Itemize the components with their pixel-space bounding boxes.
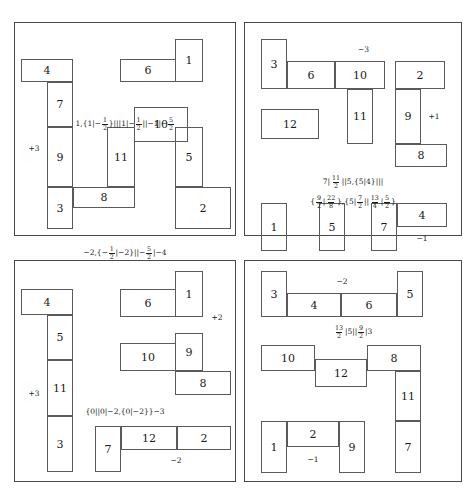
figure-board: 4617101159+38231,{1|−12}|||1|−12||−1|−52… [0,0,474,495]
game-box: 6 [120,59,176,82]
free-move-value: −3 [358,46,369,54]
game-box: 12 [121,426,177,450]
game-box-label: 2 [310,429,317,440]
free-move-label: −2 [287,271,397,293]
game-box: 8 [367,345,421,371]
game-box-label: 9 [186,347,193,358]
game-box: 5 [175,127,203,187]
game-box: 5 [397,271,423,317]
game-box: 5 [47,315,73,360]
game-box-label: 4 [44,65,51,76]
game-box-label: 6 [308,70,315,81]
game-box: 5 [319,203,345,251]
game-box: 7 [95,426,121,472]
game-box: 6 [287,61,335,89]
game-box-label: 3 [57,203,64,214]
game-box: 10 [335,61,385,89]
game-box-label: 5 [57,332,64,343]
game-box: 4 [21,59,73,82]
game-value-formula: 7|112||5,{5|4}||| [245,175,461,189]
free-move-value: +3 [28,390,39,398]
free-move-label: −1 [287,447,339,473]
game-box-label: 11 [114,152,128,163]
game-box: 12 [261,109,319,139]
game-box-label: 9 [349,442,356,453]
game-box: 7 [395,421,421,473]
panel-top-right: 3−36102119+11281574−17|112||5,{5|4}|||{9… [244,22,462,236]
game-value-formula: {0||0|−2,{0|−2}}−3 [15,408,235,416]
game-box-label: 3 [271,289,278,300]
game-box-label: 2 [200,203,207,214]
free-move-value: −1 [307,456,318,464]
game-box: 4 [287,293,341,317]
game-box-label: 12 [142,433,156,444]
game-box: 12 [315,359,367,387]
game-box-label: 7 [405,442,412,453]
game-box: 8 [395,144,447,167]
game-value-formula: 1,{1|−12}|||1|−12||−1|−52 [15,117,235,131]
free-move-value: −2 [336,278,347,286]
game-box-label: 1 [186,55,193,66]
game-box: 11 [395,371,421,421]
game-box: 8 [175,371,231,395]
game-box: 11 [107,127,135,187]
game-box: 6 [120,289,176,317]
free-move-value: −1 [416,235,427,243]
game-box-label: 11 [53,383,67,394]
game-box: 2 [287,421,339,447]
game-box: 9 [395,89,421,144]
free-move-label: +2 [203,305,231,331]
game-box-label: 8 [391,353,398,364]
free-move-label: +3 [21,82,47,215]
game-box-label: 10 [141,352,155,363]
game-box-label: 4 [311,300,318,311]
game-box-label: 7 [381,222,388,233]
game-box-label: 1 [271,222,278,233]
game-box-label: 1 [271,442,278,453]
free-move-label: +3 [21,315,47,472]
game-box-label: 3 [57,439,64,450]
panel-top-left: 4617101159+38231,{1|−12}|||1|−12||−1|−52… [14,22,236,236]
game-box-label: 1 [186,289,193,300]
game-box: 11 [347,89,373,144]
game-box-label: 7 [57,99,64,110]
game-value-formula: 132|5||92|3 [245,325,461,339]
game-box-label: 5 [186,152,193,163]
free-move-label: +1 [421,89,447,144]
game-box-label: 4 [44,297,51,308]
game-box-label: 8 [200,378,207,389]
game-box-label: 8 [418,150,425,161]
game-box-label: 5 [407,289,414,300]
game-box: 1 [175,271,203,317]
game-value-formula: −2,{−12|−2}||−52|−4 [15,246,235,260]
game-box: 2 [175,187,231,229]
game-box: 9 [339,421,365,473]
game-box-label: 6 [145,65,152,76]
game-box: 9 [175,333,203,371]
game-box-label: 10 [353,70,367,81]
game-box: 10 [120,343,176,371]
game-box: 3 [47,187,73,229]
game-box: 4 [21,289,73,315]
game-box-label: 10 [281,353,295,364]
game-box: 3 [261,39,287,89]
free-move-label: −3 [287,39,440,61]
game-box: 10 [261,345,315,371]
game-box: 2 [395,61,445,89]
game-box-label: 8 [101,192,108,203]
game-box: 9 [47,127,73,187]
free-move-label: −2 [121,450,231,472]
game-box-label: 4 [419,210,426,221]
game-value-formula: {92|228},{5|72||134|52} [245,195,461,209]
game-box: 1 [261,421,287,473]
game-box-label: 2 [201,433,208,444]
free-move-value: −2 [170,457,181,465]
game-box-label: 11 [401,391,415,402]
free-move-value: +1 [428,113,439,121]
game-box-label: 11 [353,111,367,122]
game-box-label: 6 [366,300,373,311]
game-box-label: 5 [329,222,336,233]
game-box-label: 12 [283,119,297,130]
game-box: 8 [73,187,135,208]
game-box-label: 3 [271,59,278,70]
